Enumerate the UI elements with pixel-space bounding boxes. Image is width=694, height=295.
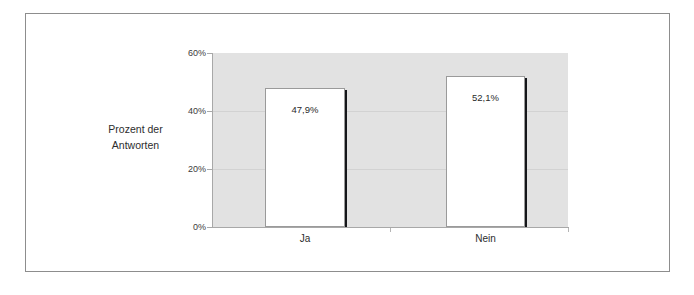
plot-area: 47,9% 52,1% [212,53,568,227]
y-tick-mark-40 [207,111,212,112]
y-axis-line [212,53,213,228]
y-tick-mark-0 [207,227,212,228]
y-tick-label-40: 40% [160,107,206,116]
y-tick-label-0: 0% [160,223,206,232]
bar-value-label-nein: 52,1% [446,93,525,103]
y-axis-title-line-1: Prozent der [78,121,193,137]
category-label-ja: Ja [265,233,345,244]
y-tick-label-20: 20% [160,165,206,174]
x-tick-mark-end [568,228,569,232]
category-label-nein: Nein [446,233,525,244]
y-tick-mark-20 [207,169,212,170]
y-tick-label-60: 60% [160,49,206,58]
chart-figure: 47,9% 52,1% 60% 40% 20% 0% Prozent der [0,0,694,295]
bar-chart: 47,9% 52,1% 60% 40% 20% 0% Prozent der [0,0,694,295]
y-tick-mark-60 [207,53,212,54]
y-axis-title: Prozent der Antworten [78,121,193,153]
x-tick-mark-separator [390,228,391,232]
y-axis-title-line-2: Antworten [78,137,193,153]
bar-value-label-ja: 47,9% [265,105,345,115]
